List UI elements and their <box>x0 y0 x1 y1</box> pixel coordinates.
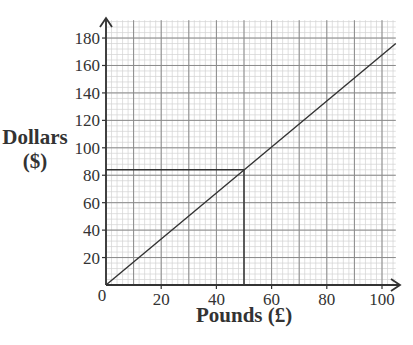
y-tick-label: 140 <box>75 84 101 103</box>
conversion-chart: 20406080100120140160180204060801000 Doll… <box>0 0 413 345</box>
x-tick-label: 100 <box>369 290 395 309</box>
y-tick-label: 120 <box>75 111 101 130</box>
origin-label: 0 <box>98 286 107 305</box>
y-axis-label-line2: ($) <box>0 149 70 173</box>
y-tick-label: 80 <box>83 166 100 185</box>
x-tick-label: 80 <box>318 290 335 309</box>
y-tick-label: 60 <box>83 194 100 213</box>
y-tick-label: 100 <box>75 139 101 158</box>
x-axis-label: Pounds (£) <box>196 303 292 328</box>
y-tick-label: 20 <box>83 249 100 268</box>
y-axis-label-line1: Dollars <box>0 125 70 149</box>
y-axis-label: Dollars ($) <box>0 125 70 173</box>
y-tick-label: 180 <box>75 29 101 48</box>
y-tick-label: 40 <box>83 221 100 240</box>
y-tick-label: 160 <box>75 56 101 75</box>
x-tick-label: 20 <box>153 290 170 309</box>
